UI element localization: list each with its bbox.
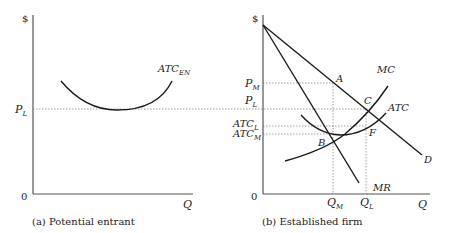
mr-curve [263, 25, 359, 183]
mc-label: MC [376, 64, 395, 75]
point-a-label: A [335, 73, 343, 84]
atc-en-curve [61, 81, 172, 110]
panel-a-q-label: Q [183, 198, 192, 211]
atc-label: ATC [387, 102, 409, 113]
panel-b: $ 0 Q PM PL ATCL ATCM QM QL A B C F MC A… [232, 13, 432, 227]
panel-b-dollar-label: $ [252, 13, 258, 24]
point-b-label: B [317, 137, 325, 148]
qm-label: QM [327, 196, 344, 211]
ql-label: QL [360, 196, 374, 211]
panel-b-q-label: Q [418, 198, 427, 211]
panel-a: $ 0 Q PL ATCEN (a) Potential entrant [14, 13, 193, 227]
pm-label: PM [244, 77, 260, 92]
panel-a-caption: (a) Potential entrant [32, 216, 135, 227]
panel-a-origin: 0 [21, 191, 27, 202]
pl-label: PL [244, 94, 257, 109]
diagram-canvas: $ 0 Q PL ATCEN (a) Potential entrant $ 0… [0, 0, 454, 233]
panel-b-caption: (b) Established firm [262, 216, 363, 227]
mr-label: MR [372, 182, 391, 193]
panel-a-dollar-label: $ [22, 13, 28, 24]
point-f-label: F [368, 127, 377, 138]
d-label: D [423, 154, 432, 165]
atc-en-label: ATCEN [157, 63, 191, 77]
panel-a-pl-label: PL [14, 103, 27, 118]
panel-b-origin: 0 [251, 191, 257, 202]
mc-curve [285, 86, 388, 161]
point-c-label: C [364, 95, 372, 106]
